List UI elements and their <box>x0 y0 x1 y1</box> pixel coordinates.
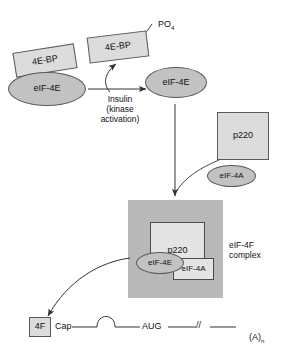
poly-a-tail-label: (A)n <box>239 321 264 351</box>
eif4e-complex-label: eIF-4E <box>148 259 172 267</box>
bound-eif4e-ellipse: eIF-4E <box>8 72 86 106</box>
free-eif4e-ellipse: eIF-4E <box>145 67 207 98</box>
poly-a-text: (A) <box>249 332 261 342</box>
poly-a-subscript: n <box>261 337 264 343</box>
four-f-label: 4F <box>35 322 46 331</box>
p220-free-box: p220 <box>217 112 269 160</box>
p220-free-label: p220 <box>233 131 253 140</box>
four-f-box: 4F <box>29 317 51 337</box>
bound-eif4e-label: eIF-4E <box>33 84 60 93</box>
phosphate-label: PO4 <box>148 8 174 42</box>
phosphate-text: PO <box>158 19 171 29</box>
eif4a-complex-label: eIF-4A <box>181 265 205 273</box>
bound-4ebp-label: 4E-BP <box>31 54 58 67</box>
phosphate-subscript: 4 <box>171 24 174 30</box>
eif4a-free-ellipse: eIF-4A <box>207 165 256 187</box>
cap-label: Cap <box>55 321 72 332</box>
eif4f-complex-label: eIF-4F complex <box>229 240 261 260</box>
aug-label: AUG <box>142 321 162 332</box>
diagram-canvas: 4E-BP eIF-4E 4E-BP PO4 Insulin (kinase a… <box>0 0 286 351</box>
insulin-annotation: Insulin (kinase activation) <box>92 94 148 124</box>
released-4ebp-label: 4E-BP <box>105 41 132 54</box>
4ebp-release-arrow <box>106 64 116 92</box>
eif4a-free-label: eIF-4A <box>219 172 243 180</box>
eif4e-complex-ellipse: eIF-4E <box>136 252 184 274</box>
sequence-break-marker: // <box>196 320 201 331</box>
mrna-hairpin-loop <box>97 317 115 328</box>
free-eif4e-label: eIF-4E <box>162 78 189 87</box>
complex-to-mrna-arrow <box>48 258 130 316</box>
